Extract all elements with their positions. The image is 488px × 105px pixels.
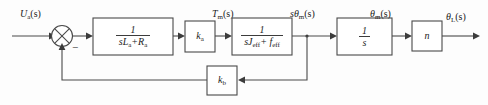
block-label-back-emf: kb — [207, 66, 237, 95]
block-label-torque-constant: ka — [185, 21, 215, 52]
block-label-gear-ratio: n — [412, 21, 442, 51]
wire-electrical-to-gain — [173, 33, 185, 40]
wire-gear-to-output — [442, 33, 480, 40]
signal-label-load-angle: θL(s) — [446, 12, 466, 24]
block-label-electrical: 1 sLa+Ra — [93, 18, 173, 55]
wire-mechanical-to-integrator — [292, 33, 337, 40]
block-diagram-canvas: Ua(s) − 1 sLa+Ra ka Tm(s) 1 sJeff+ feff — [0, 0, 488, 105]
signal-label-input: Ua(s) — [20, 9, 41, 21]
signal-label-motor-angle: θm(s) — [370, 9, 391, 21]
wire-gain-to-mechanical — [215, 33, 232, 40]
wire-input-to-sum — [12, 33, 56, 40]
block-label-mechanical: 1 sJeff+ feff — [232, 18, 292, 55]
signal-label-torque: Tm(s) — [212, 9, 234, 21]
wire-integrator-to-gear — [392, 33, 412, 40]
summing-junction-negative-sign: − — [72, 42, 78, 53]
signal-label-speed: sθm(s) — [290, 9, 315, 21]
wire-sum-to-electrical — [73, 33, 94, 40]
block-label-integrator: 1 s — [337, 18, 392, 55]
